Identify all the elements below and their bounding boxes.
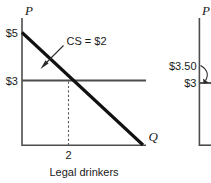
- consumer-surplus-label: CS = $2: [67, 35, 107, 47]
- right-shift-arrow-curve: [201, 66, 208, 81]
- right-y-axis-label: P: [201, 3, 210, 18]
- left-xtick-2: 2: [65, 149, 71, 161]
- left-panel: P Q $5 $3 2 Legal drinkers CS = $2: [6, 3, 159, 178]
- right-ytick-350: $3.50: [169, 60, 197, 72]
- left-ytick-3: $3: [6, 75, 18, 87]
- right-ytick-3: $3: [184, 77, 196, 89]
- economics-figure: P Q $5 $3 2 Legal drinkers CS = $2: [0, 0, 211, 183]
- left-ytick-5: $5: [6, 27, 18, 39]
- figure-canvas: P Q $5 $3 2 Legal drinkers CS = $2: [0, 0, 211, 183]
- left-y-axis-label: P: [24, 3, 33, 18]
- left-demand-curve: [22, 33, 143, 146]
- right-panel: P $3.50 $3: [169, 3, 211, 146]
- left-x-axis-label: Q: [149, 129, 159, 144]
- left-caption: Legal drinkers: [49, 166, 119, 178]
